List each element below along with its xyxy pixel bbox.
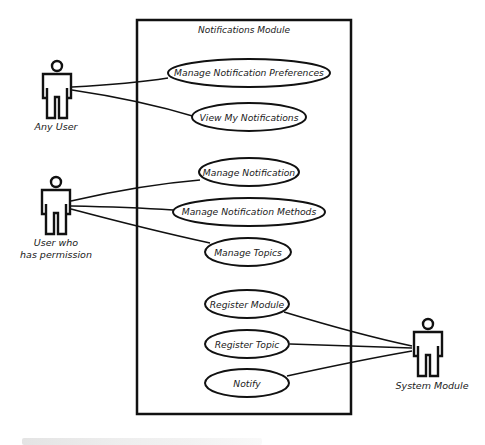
actor-user-with-permission[interactable]: [42, 177, 70, 234]
association-sys-uc6: [284, 312, 412, 346]
actor-label-user-with-permission-line1: User who: [34, 237, 78, 248]
association-anyuser-uc1: [72, 78, 168, 87]
use-case-label: Manage Notification Preferences: [174, 67, 324, 78]
use-case-label: Manage Topics: [214, 247, 282, 258]
association-perm-uc3: [71, 180, 200, 201]
actor-system-module[interactable]: [414, 319, 442, 376]
association-perm-uc4: [71, 206, 173, 210]
association-sys-uc8: [287, 351, 412, 376]
use-case-label: View My Notifications: [200, 112, 299, 123]
use-case-diagram: Notifications Module Manage Notification…: [0, 0, 485, 445]
stick-figure-icon: [42, 177, 70, 234]
actor-any-user[interactable]: [43, 61, 71, 118]
use-case-label: Register Module: [210, 299, 285, 310]
stick-figure-icon: [43, 61, 71, 118]
figure-caption-faded: [22, 438, 262, 445]
actor-label-system-module: System Module: [396, 380, 469, 391]
actor-label-user-with-permission-line2: has permission: [20, 249, 92, 260]
use-case-label: Manage Notification: [203, 167, 295, 178]
actor-label-any-user: Any User: [34, 121, 79, 132]
stick-figure-icon: [414, 319, 442, 376]
use-case-label: Register Topic: [215, 339, 280, 350]
use-case-label: Notify: [233, 378, 261, 389]
association-anyuser-uc2: [72, 90, 196, 117]
use-case-label: Manage Notification Methods: [182, 206, 317, 217]
system-boundary-title: Notifications Module: [198, 25, 291, 35]
